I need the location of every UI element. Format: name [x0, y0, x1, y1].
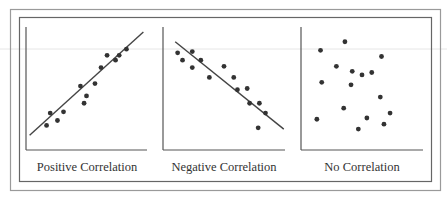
- data-point: [388, 111, 393, 116]
- data-point: [379, 54, 384, 59]
- data-point: [222, 64, 227, 69]
- data-point: [263, 111, 268, 116]
- data-point: [190, 65, 195, 70]
- label-no-correlation: No Correlation: [301, 160, 423, 175]
- data-point: [55, 118, 60, 123]
- data-point: [190, 49, 195, 54]
- inner-frame: [20, 18, 432, 182]
- data-point: [99, 65, 104, 70]
- data-point: [318, 48, 323, 53]
- data-point: [334, 64, 339, 69]
- data-point: [61, 109, 66, 114]
- data-point: [319, 80, 324, 85]
- data-point: [175, 50, 180, 55]
- figure: Positive Correlation Negative Correlatio…: [0, 0, 447, 198]
- data-point: [364, 116, 369, 121]
- data-point: [369, 70, 374, 75]
- data-point: [356, 127, 361, 132]
- data-point: [180, 58, 185, 63]
- data-point: [93, 81, 98, 86]
- panel-negative: [163, 27, 285, 150]
- data-point: [245, 86, 250, 91]
- data-point: [382, 122, 387, 127]
- data-point: [231, 75, 236, 80]
- data-point: [48, 111, 53, 116]
- data-point: [349, 82, 354, 87]
- data-point: [44, 123, 49, 128]
- data-point: [235, 87, 240, 92]
- data-point: [341, 106, 346, 111]
- data-point: [124, 47, 129, 52]
- panels: [26, 27, 423, 150]
- data-point: [198, 58, 203, 63]
- data-point: [350, 69, 355, 74]
- data-point: [105, 53, 110, 58]
- data-point: [117, 53, 122, 58]
- label-positive-correlation: Positive Correlation: [26, 160, 148, 175]
- trendline: [175, 42, 284, 129]
- data-point: [257, 101, 262, 106]
- panel-none: [301, 27, 423, 150]
- data-point: [343, 39, 348, 44]
- data-point: [82, 101, 87, 106]
- data-point: [378, 95, 383, 100]
- data-point: [360, 73, 365, 78]
- data-point: [84, 93, 89, 98]
- data-point: [247, 101, 252, 106]
- data-point: [256, 125, 261, 130]
- panel-positive: [26, 27, 147, 150]
- data-point: [78, 84, 83, 89]
- data-point: [207, 75, 212, 80]
- data-point: [113, 58, 118, 63]
- label-negative-correlation: Negative Correlation: [163, 160, 285, 175]
- data-point: [314, 117, 319, 122]
